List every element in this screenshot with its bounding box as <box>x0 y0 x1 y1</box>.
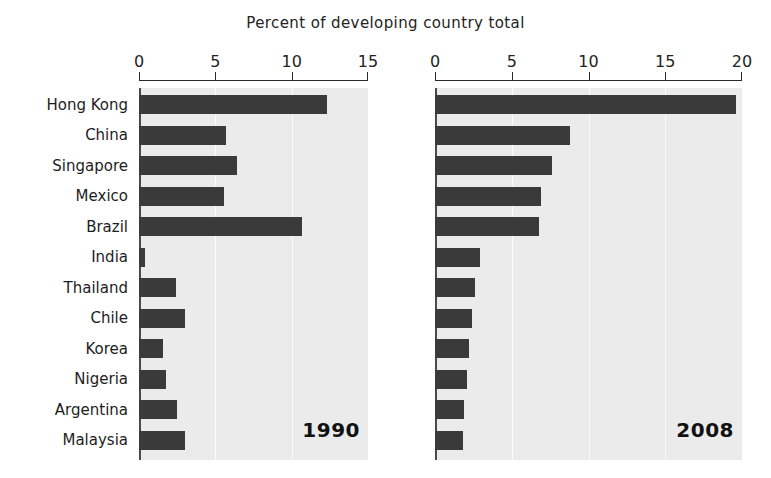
bar-2008-india <box>435 248 480 267</box>
gridline-1990-10 <box>292 88 293 460</box>
panel-2008: 051015202008 <box>390 0 771 478</box>
bar-1990-india <box>139 248 145 267</box>
bar-1990-singapore <box>139 156 237 175</box>
bar-1990-mexico <box>139 187 224 206</box>
xtick-label-2008-5: 5 <box>507 52 517 71</box>
xtick-label-1990-10: 10 <box>281 52 301 71</box>
gridline-2008-10 <box>589 88 590 460</box>
year-annotation-1990: 1990 <box>302 418 360 442</box>
bar-1990-chile <box>139 309 185 328</box>
bar-1990-china <box>139 126 226 145</box>
bar-2008-argentina <box>435 400 464 419</box>
bar-1990-brazil <box>139 217 302 236</box>
x-axis-line-2008 <box>435 80 742 81</box>
bar-2008-china <box>435 126 570 145</box>
bar-2008-nigeria <box>435 370 467 389</box>
bar-2008-thailand <box>435 278 475 297</box>
plot-area-2008: 2008 <box>435 88 742 460</box>
xtick-mark-1990-10 <box>292 72 293 80</box>
bar-2008-chile <box>435 309 472 328</box>
bar-1990-argentina <box>139 400 177 419</box>
xtick-label-2008-20: 20 <box>732 52 752 71</box>
bar-1990-nigeria <box>139 370 166 389</box>
xtick-mark-2008-0 <box>435 72 436 80</box>
bar-1990-thailand <box>139 278 176 297</box>
panel-1990: 0510151990 <box>0 0 400 478</box>
bar-1990-malaysia <box>139 431 185 450</box>
bar-2008-korea <box>435 339 469 358</box>
xtick-label-1990-0: 0 <box>134 52 144 71</box>
xtick-mark-1990-0 <box>139 72 140 80</box>
xtick-mark-2008-15 <box>665 72 666 80</box>
xtick-mark-1990-5 <box>215 72 216 80</box>
xtick-mark-2008-5 <box>512 72 513 80</box>
bar-2008-mexico <box>435 187 541 206</box>
figure: Percent of developing country total Hong… <box>0 0 771 478</box>
xtick-label-1990-5: 5 <box>210 52 220 71</box>
xtick-mark-1990-15 <box>367 72 368 80</box>
bar-2008-malaysia <box>435 431 463 450</box>
bar-1990-hong-kong <box>139 95 327 114</box>
bar-1990-korea <box>139 339 163 358</box>
gridline-2008-15 <box>665 88 666 460</box>
plot-area-1990: 1990 <box>139 88 368 460</box>
bar-2008-singapore <box>435 156 552 175</box>
x-axis-line-1990 <box>139 80 368 81</box>
xtick-label-2008-15: 15 <box>655 52 675 71</box>
xtick-label-2008-0: 0 <box>430 52 440 71</box>
xtick-mark-2008-20 <box>741 72 742 80</box>
xtick-label-1990-15: 15 <box>358 52 378 71</box>
xtick-label-2008-10: 10 <box>578 52 598 71</box>
xtick-mark-2008-10 <box>589 72 590 80</box>
bar-2008-hong-kong <box>435 95 736 114</box>
year-annotation-2008: 2008 <box>676 418 734 442</box>
bar-2008-brazil <box>435 217 539 236</box>
